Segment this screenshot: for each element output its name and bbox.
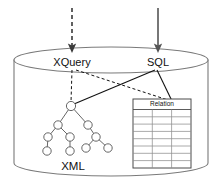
xml-tree-node xyxy=(66,133,74,141)
xml-tree-node xyxy=(84,121,92,129)
cylinder-top-ellipse xyxy=(14,47,208,73)
xquery-label: XQuery xyxy=(53,56,91,68)
relation-table-header-label: Relation xyxy=(150,100,174,107)
xml-tree-node xyxy=(104,144,112,152)
xml-tree-node xyxy=(44,133,52,141)
xml-tree-node xyxy=(92,133,100,141)
database-architecture-diagram: XQuery SQL xyxy=(0,0,222,194)
sql-label: SQL xyxy=(147,56,169,68)
xml-tree-root xyxy=(66,101,75,110)
relation-table: Relation xyxy=(133,99,191,168)
xml-label: XML xyxy=(61,160,85,172)
diagram-root: XQuery SQL xyxy=(0,0,222,194)
xml-tree-node xyxy=(66,147,74,155)
xml-tree-node xyxy=(82,144,90,152)
xml-tree-node xyxy=(43,147,51,155)
xml-tree-node xyxy=(54,121,62,129)
